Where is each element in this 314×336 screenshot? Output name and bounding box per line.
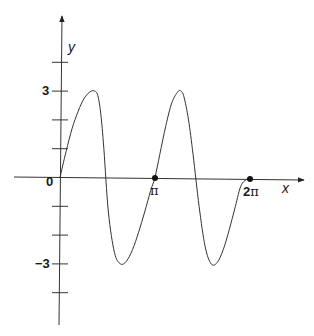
x-axis [14,177,304,180]
y-tick-label-3: 3 [42,83,49,98]
origin-label: 0 [46,174,53,189]
point-pi [152,175,158,181]
x-tick-label-pi: π [150,183,159,198]
sinusoid-chart: y x 0 3 −3 π 2π [0,0,314,336]
point-two-pi [247,176,253,182]
x-axis-label: x [281,180,290,196]
y-tick-label-neg-3: −3 [35,256,50,271]
x-tick-label-two-pi: 2π [243,184,259,199]
two-pi-coefficient: 2 [243,184,250,199]
y-axis-label: y [67,39,76,55]
two-pi-symbol: π [250,184,259,199]
